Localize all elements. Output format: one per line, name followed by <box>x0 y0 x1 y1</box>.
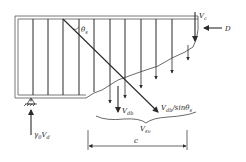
theta-angle-arc <box>73 27 79 30</box>
c-label: c <box>134 137 138 145</box>
vdb-sin-label: Vdb/sinθs <box>161 104 192 113</box>
beam-outline <box>15 16 198 98</box>
stirrup-force-arrows <box>110 45 188 103</box>
d-label: D <box>224 25 231 33</box>
reaction-label: γ0Vd <box>34 131 50 140</box>
vsv-brace <box>96 112 196 123</box>
beam-shear-diagram: θs Vdb Vdb/sinθs Vsv c Vc D γ0Vd <box>0 0 246 162</box>
crack-boundary <box>86 16 198 98</box>
theta-label: θs <box>81 26 88 35</box>
vdb-label: Vdb <box>122 107 133 116</box>
vsv-label: Vsv <box>140 125 151 134</box>
pin-support <box>24 98 37 106</box>
vc-label: Vc <box>199 12 207 21</box>
